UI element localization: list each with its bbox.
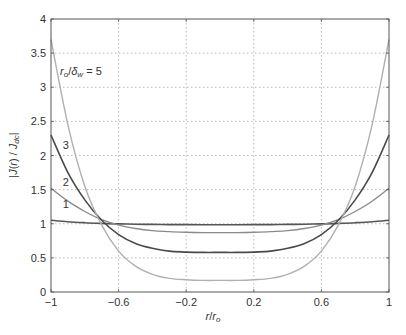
y-tick-label: 3	[40, 81, 46, 93]
x-tick-label: 0.6	[314, 296, 329, 308]
y-axis-label: |J(r) / Jdc|	[7, 132, 21, 177]
x-tick-label: 0.2	[246, 296, 261, 308]
curve-label: 1	[63, 198, 69, 210]
x-tick-label: −1	[45, 296, 58, 308]
y-tick-label: 2.5	[31, 115, 46, 127]
line-chart: −1−0.6−0.20.20.6100.511.522.533.54 123 r…	[0, 0, 406, 335]
y-tick-label: 4	[40, 13, 46, 25]
y-tick-label: 1.5	[31, 184, 46, 196]
grid-lines	[51, 19, 389, 292]
curve-label: 2	[63, 176, 69, 188]
axis-ticks: −1−0.6−0.20.20.6100.511.522.533.54	[31, 13, 392, 308]
y-tick-label: 2	[40, 150, 46, 162]
x-tick-label: −0.6	[108, 296, 130, 308]
y-tick-label: 1	[40, 218, 46, 230]
curve-label: 3	[63, 139, 69, 151]
y-tick-label: 3.5	[31, 47, 46, 59]
curve-3	[51, 135, 389, 252]
y-tick-label: 0.5	[31, 252, 46, 264]
y-tick-label: 0	[40, 286, 46, 298]
x-tick-label: 1	[386, 296, 392, 308]
annotation-ratio: ro/δw = 5	[60, 65, 102, 79]
x-tick-label: −0.2	[175, 296, 197, 308]
x-axis-label: r/ro	[206, 310, 221, 324]
